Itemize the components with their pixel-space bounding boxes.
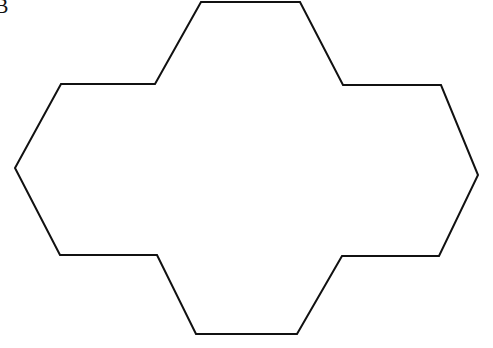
polyhex-shape-svg [0,0,493,348]
figure-canvas: B [0,0,493,348]
polyhex-outline-path [15,2,478,334]
